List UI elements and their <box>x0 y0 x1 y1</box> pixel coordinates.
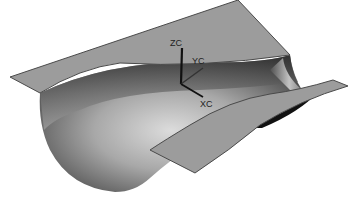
3d-surface-drawing: ZC YC XC <box>0 0 354 206</box>
x-axis-label: XC <box>200 99 213 109</box>
z-axis <box>181 48 182 84</box>
y-axis-label: YC <box>192 56 205 66</box>
surface-model-view: ZC YC XC <box>0 0 354 206</box>
z-axis-label: ZC <box>170 38 182 48</box>
